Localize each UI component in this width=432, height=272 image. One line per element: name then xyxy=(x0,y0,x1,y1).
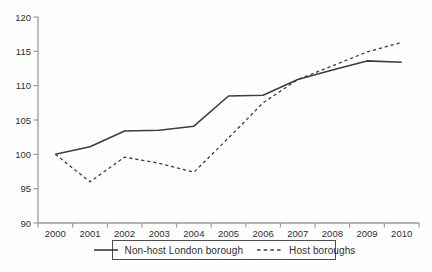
axis-lines xyxy=(38,17,419,223)
solid-line-sample-icon xyxy=(93,247,119,253)
series-line-host-boroughs xyxy=(55,42,401,181)
x-axis-tick-label: 2002 xyxy=(114,228,135,239)
x-axis-tick-label: 2006 xyxy=(253,228,274,239)
x-axis-tick-label: 2001 xyxy=(79,228,100,239)
legend-label-host: Host boroughs xyxy=(289,245,355,256)
dashed-line-sample-icon xyxy=(256,247,283,253)
legend-item-host: Host boroughs xyxy=(256,245,355,256)
x-axis-tick-label: 2005 xyxy=(218,228,239,239)
x-axis-tick-label: 2007 xyxy=(287,228,308,239)
y-axis-tick-label: 105 xyxy=(15,115,31,126)
chart-plot-area: 9095100105110115120200020012002200320042… xyxy=(0,0,432,272)
x-axis-tick-label: 2000 xyxy=(45,228,66,239)
x-axis-tick-label: 2004 xyxy=(183,228,204,239)
line-chart-figure: 9095100105110115120200020012002200320042… xyxy=(0,0,432,272)
x-axis-tick-label: 2008 xyxy=(322,228,343,239)
y-axis-tick-label: 110 xyxy=(16,80,31,91)
y-axis-tick-label: 120 xyxy=(15,12,31,23)
y-axis-tick-label: 90 xyxy=(20,218,31,229)
x-axis-tick-label: 2009 xyxy=(356,228,377,239)
x-axis-tick-label: 2010 xyxy=(391,228,412,239)
y-axis-tick-label: 95 xyxy=(20,183,31,194)
legend-item-non-host: Non-host London borough xyxy=(93,245,244,256)
legend-label-non-host: Non-host London borough xyxy=(125,245,244,256)
y-axis-tick-label: 100 xyxy=(15,149,31,160)
chart-legend: Non-host London borough Host boroughs xyxy=(112,240,336,260)
x-axis-tick-label: 2003 xyxy=(149,228,170,239)
series-line-non-host-london-borough xyxy=(55,61,401,154)
y-axis-tick-label: 115 xyxy=(16,46,31,57)
